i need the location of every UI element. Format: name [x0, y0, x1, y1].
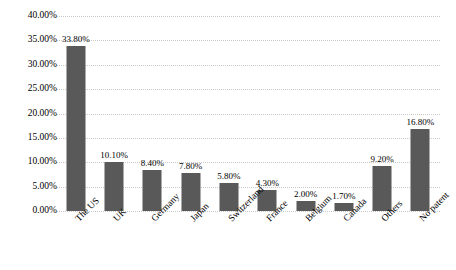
y-axis-tick-label: 40.00% [1, 11, 57, 21]
bars-layer: 33.80%10.10%8.40%7.80%5.80%4.30%2.00%1.7… [57, 16, 440, 211]
bar[interactable] [105, 162, 124, 211]
bar-value-label: 5.80% [217, 172, 240, 181]
bar-value-label: 9.20% [371, 155, 394, 164]
x-axis-label-slot: Germany [134, 211, 172, 270]
x-axis: The USUKGermanyJapanSwitzerlandFranceBel… [57, 211, 440, 270]
y-axis-tick-label: 15.00% [1, 133, 57, 143]
bar-slot: 7.80% [172, 16, 210, 211]
x-axis-label-slot: Belgium [287, 211, 325, 270]
x-axis-label-slot: Japan [172, 211, 210, 270]
x-axis-label-slot: France [249, 211, 287, 270]
bar-slot: 1.70% [325, 16, 363, 211]
bar[interactable] [66, 46, 85, 211]
y-axis-tick-label: 25.00% [1, 84, 57, 94]
bar-value-label: 8.40% [141, 159, 164, 168]
y-axis-tick-label: 5.00% [1, 182, 57, 192]
bar[interactable] [181, 173, 200, 211]
bar-slot: 4.30% [249, 16, 287, 211]
bar-slot: 10.10% [95, 16, 133, 211]
x-axis-label-slot: No patent [402, 211, 440, 270]
bar-value-label: 10.10% [100, 151, 128, 160]
bar-value-label: 2.00% [294, 190, 317, 199]
y-axis-tick-label: 35.00% [1, 36, 57, 46]
bar[interactable] [411, 129, 430, 211]
bar-slot: 2.00% [287, 16, 325, 211]
x-axis-label-slot: The US [57, 211, 95, 270]
bar-slot: 16.80% [402, 16, 440, 211]
bar-value-label: 16.80% [407, 118, 435, 127]
bar-slot: 8.40% [134, 16, 172, 211]
y-axis-tick-label: 0.00% [1, 206, 57, 216]
bar-value-label: 7.80% [179, 162, 202, 171]
x-axis-label-slot: Canada [325, 211, 363, 270]
bar[interactable] [373, 166, 392, 211]
y-axis: 0.00%5.00%10.00%15.00%20.00%25.00%30.00%… [0, 0, 57, 270]
x-axis-label-slot: Others [363, 211, 401, 270]
bar-chart: 0.00%5.00%10.00%15.00%20.00%25.00%30.00%… [0, 0, 456, 270]
y-axis-tick-label: 30.00% [1, 60, 57, 70]
bar-value-label: 1.70% [332, 192, 355, 201]
y-axis-tick-label: 10.00% [1, 158, 57, 168]
x-axis-label-slot: Switzerland [210, 211, 248, 270]
bar-value-label: 33.80% [62, 35, 90, 44]
x-axis-label-slot: UK [95, 211, 133, 270]
bar-slot: 5.80% [210, 16, 248, 211]
bar-slot: 33.80% [57, 16, 95, 211]
bar-slot: 9.20% [363, 16, 401, 211]
y-axis-tick-label: 20.00% [1, 109, 57, 119]
